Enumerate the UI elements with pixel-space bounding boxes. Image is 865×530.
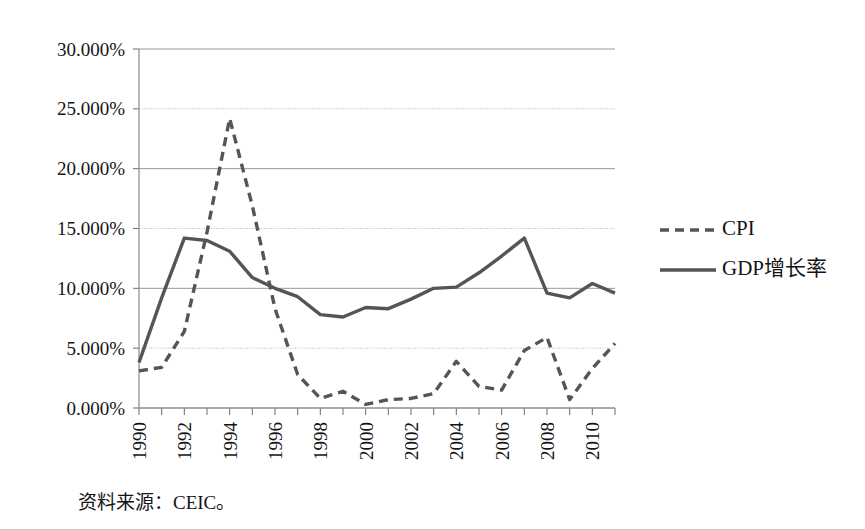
- x-axis-tick-label: 2000: [356, 422, 377, 460]
- gridlines-group: [139, 49, 615, 408]
- y-axis-tick-label: 10.000%: [57, 278, 125, 299]
- legend-group: CPIGDP增长率: [660, 216, 827, 280]
- y-axis-tick-label: 30.000%: [57, 39, 125, 60]
- series-line-gdp: [139, 238, 615, 362]
- x-axis-tick-label: 2008: [537, 422, 558, 460]
- chart-plot-area: 0.000%5.000%10.000%15.000%20.000%25.000%…: [0, 0, 865, 480]
- x-axis-tick-label: 1996: [265, 422, 286, 460]
- x-axis-labels-group: 1990199219941996199820002002200420062008…: [129, 422, 603, 461]
- line-chart: 0.000%5.000%10.000%15.000%20.000%25.000%…: [0, 0, 865, 480]
- y-axis-labels-group: 0.000%5.000%10.000%15.000%20.000%25.000%…: [57, 39, 125, 419]
- legend-label-gdp: GDP增长率: [722, 256, 827, 280]
- x-axis-tick-label: 1994: [220, 422, 241, 461]
- y-axis-ticks-group: [133, 49, 139, 408]
- x-axis-tick-label: 1998: [310, 422, 331, 460]
- x-axis-tick-label: 2006: [492, 422, 513, 460]
- y-axis-tick-label: 5.000%: [66, 338, 125, 359]
- x-axis-tick-label: 2010: [582, 422, 603, 460]
- data-series-group: [139, 118, 615, 404]
- y-axis-tick-label: 0.000%: [66, 398, 125, 419]
- x-axis-ticks-group: [139, 408, 615, 415]
- x-axis-tick-label: 2002: [401, 422, 422, 460]
- source-note: 资料来源：CEIC。: [78, 487, 235, 514]
- x-axis-tick-label: 2004: [446, 422, 467, 461]
- y-axis-tick-label: 25.000%: [57, 98, 125, 119]
- y-axis-tick-label: 20.000%: [57, 158, 125, 179]
- y-axis-tick-label: 15.000%: [57, 218, 125, 239]
- x-axis-tick-label: 1990: [129, 422, 150, 460]
- legend-label-cpi: CPI: [722, 216, 755, 240]
- series-line-cpi: [139, 118, 615, 404]
- x-axis-tick-label: 1992: [174, 422, 195, 460]
- figure-container: 0.000%5.000%10.000%15.000%20.000%25.000%…: [0, 0, 865, 530]
